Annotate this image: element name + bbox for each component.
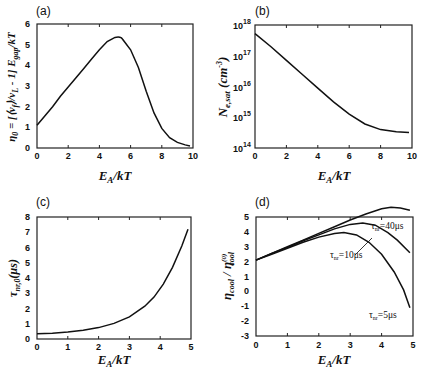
panel-b-x-ticks: 0 2 4 6 8 10: [252, 151, 417, 161]
panel-d-annotation-5us: τnr=5μs: [369, 310, 397, 321]
y-tick: 8: [25, 212, 30, 222]
x-tick: 8: [159, 151, 164, 161]
y-tick: -2: [241, 316, 249, 326]
panel-b-x-axis-label: EA/kT: [317, 168, 352, 185]
x-tick: 0: [252, 151, 257, 161]
panel-d-annotation-10us: τnr=10μs: [330, 250, 363, 261]
panel-d-x-axis-label: EA/kT: [317, 352, 352, 369]
x-tick: 2: [316, 340, 321, 350]
y-tick: 1: [25, 319, 30, 329]
y-tick: 1015: [233, 110, 251, 123]
x-tick: 10: [188, 151, 198, 161]
x-tick: 0: [253, 340, 258, 350]
panel-c-x-ticks: 0 1 2 3 4 5: [34, 342, 193, 352]
panel-a-y-ticks: 0 1 2 3 4 5 6: [25, 19, 30, 153]
x-tick: 6: [128, 151, 133, 161]
y-tick: 1: [244, 272, 249, 282]
y-tick: 4: [25, 273, 30, 283]
panel-a: (a) 0 2 4 6 8 10 0 1 2 3 4 5 6 η0 = [⟨νf…: [5, 4, 198, 185]
panel-b-tickmarks: [286, 25, 380, 148]
x-tick: 3: [348, 340, 353, 350]
x-tick: 4: [379, 340, 384, 350]
panel-a-curve: [37, 37, 190, 146]
panel-d-x-ticks: 0 1 2 3 4 5: [253, 340, 415, 350]
y-tick: 2: [25, 304, 30, 314]
y-tick: 1: [25, 122, 30, 132]
panel-d-y-axis-label: ηcool / η(0)cool: [219, 251, 236, 300]
y-tick: 1018: [233, 18, 251, 31]
x-tick: 1: [65, 342, 70, 352]
svg-text:Ne,sat (cm-3): Ne,sat (cm-3): [215, 57, 232, 119]
y-tick: 1016: [233, 80, 251, 93]
y-tick: 1014: [233, 141, 251, 154]
panel-c-plot-area: [37, 217, 191, 339]
y-tick: 5: [244, 212, 249, 222]
panel-a-plot-area: [37, 24, 193, 148]
panel-c-label: (c): [36, 195, 50, 209]
panel-c-y-axis-label: τnr,0(μs): [6, 259, 22, 297]
y-tick: 3: [25, 81, 30, 91]
panel-d-y-ticks: -3 -2 -1 0 1 2 3 4 5: [241, 212, 249, 341]
panel-d-annotation-40us: τnr=40μs: [371, 221, 404, 232]
panel-d-curve-5us: [256, 233, 410, 308]
x-tick: 4: [158, 342, 163, 352]
svg-text:τnr,0(μs): τnr,0(μs): [6, 259, 22, 297]
panel-c-tickmarks: [68, 217, 160, 339]
x-tick: 1: [285, 340, 290, 350]
panel-c: (c) 0 1 2 3 4 5 0 1 2 3 4 5 6 7 8 τn: [6, 195, 194, 369]
panel-d: (d) 0 1 2 3 4 5 -3 -2 -1 0 1 2 3 4 5: [219, 195, 416, 369]
y-tick: 7: [25, 227, 30, 237]
panel-d-tickmarks: [287, 217, 381, 336]
svg-text:η0 = [⟨νf⟩/νL - 1] Egap/kT: η0 = [⟨νf⟩/νL - 1] Egap/kT: [5, 31, 20, 142]
y-tick: 0: [25, 143, 30, 153]
y-tick: 3: [244, 242, 249, 252]
x-tick: 8: [378, 151, 383, 161]
y-tick: 2: [25, 102, 30, 112]
panel-b-curve: [255, 34, 409, 133]
x-tick: 5: [410, 340, 415, 350]
y-tick: 6: [25, 19, 30, 29]
x-tick: 2: [96, 342, 101, 352]
panel-b-plot-area: [255, 25, 412, 148]
x-tick: 5: [188, 342, 193, 352]
panel-a-x-ticks: 0 2 4 6 8 10: [34, 151, 198, 161]
y-tick: 5: [25, 258, 30, 268]
panel-a-x-axis-label: EA/kT: [98, 168, 133, 185]
panel-b-y-ticks: 1014 1015 1016 1017 1018: [233, 18, 251, 154]
x-tick: 2: [284, 151, 289, 161]
x-tick: 6: [347, 151, 352, 161]
y-tick: 5: [25, 40, 30, 50]
y-tick: 0: [244, 286, 249, 296]
y-tick: -1: [241, 301, 249, 311]
panel-c-curve: [37, 229, 188, 334]
panel-b-label: (b): [255, 4, 270, 18]
x-tick: 0: [34, 342, 39, 352]
x-tick: 4: [315, 151, 320, 161]
panel-a-label: (a): [36, 4, 51, 18]
x-tick: 3: [127, 342, 132, 352]
x-tick: 2: [66, 151, 71, 161]
panel-d-label: (d): [255, 195, 270, 209]
y-tick: 0: [25, 334, 30, 344]
svg-text:ηcool / η(0)cool: ηcool / η(0)cool: [219, 251, 236, 300]
x-tick: 0: [34, 151, 39, 161]
panel-b: (b) 0 2 4 6 8 10 1014 1015 1016 1017 101…: [215, 4, 417, 185]
x-tick: 4: [97, 151, 102, 161]
panel-c-x-axis-label: EA/kT: [97, 352, 132, 369]
x-tick: 10: [407, 151, 417, 161]
y-tick: -3: [241, 331, 249, 341]
panel-c-y-ticks: 0 1 2 3 4 5 6 7 8: [25, 212, 30, 344]
y-tick: 4: [25, 60, 30, 70]
panel-a-y-axis-label: η0 = [⟨νf⟩/νL - 1] Egap/kT: [5, 31, 20, 142]
y-tick: 3: [25, 288, 30, 298]
figure: (a) 0 2 4 6 8 10 0 1 2 3 4 5 6 η0 = [⟨νf…: [0, 0, 421, 369]
y-tick: 6: [25, 243, 30, 253]
panel-b-y-axis-label: Ne,sat (cm-3): [215, 57, 232, 119]
y-tick: 4: [244, 227, 249, 237]
y-tick: 2: [244, 257, 249, 267]
panel-a-top-tickmarks: [68, 24, 162, 148]
y-tick: 1017: [233, 49, 251, 62]
